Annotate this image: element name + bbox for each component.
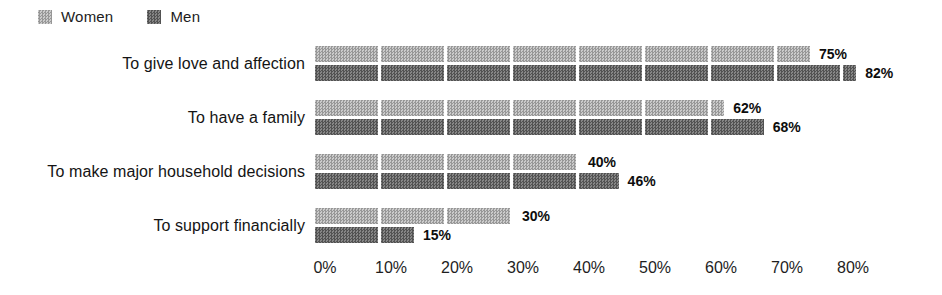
grouped-bar-chart: Women Men To give love and affection75%8… (0, 0, 942, 295)
category-group: To support financially30%15% (0, 208, 942, 243)
bar-pair: 30%15% (315, 208, 942, 243)
bar-row-men: 82% (315, 65, 942, 81)
women-bar (315, 100, 724, 116)
x-axis-tick: 40% (573, 259, 605, 277)
value-label: 15% (423, 227, 451, 243)
value-label: 30% (522, 208, 550, 224)
x-axis-tick: 80% (837, 259, 869, 277)
category-label: To make major household decisions (0, 163, 315, 181)
bar-pair: 40%46% (315, 154, 942, 189)
category-group: To give love and affection75%82% (0, 46, 942, 81)
value-label: 82% (865, 65, 893, 81)
x-axis-tick: 60% (705, 259, 737, 277)
men-bar (315, 119, 764, 135)
x-axis-tick: 30% (507, 259, 539, 277)
legend-item-men: Men (147, 8, 200, 25)
legend-label-women: Women (61, 8, 113, 25)
x-axis-tick: 50% (639, 259, 671, 277)
bar-row-women: 75% (315, 46, 942, 62)
legend-item-women: Women (38, 8, 113, 25)
legend: Women Men (38, 8, 200, 25)
x-axis-tick: 0% (313, 259, 336, 277)
bar-row-men: 68% (315, 119, 942, 135)
x-axis-tick: 10% (375, 259, 407, 277)
category-group: To have a family62%68% (0, 100, 942, 135)
legend-label-men: Men (170, 8, 200, 25)
bar-pair: 62%68% (315, 100, 942, 135)
plot-area: To give love and affection75%82%To have … (0, 46, 942, 262)
category-group: To make major household decisions40%46% (0, 154, 942, 189)
x-axis-tick: 70% (771, 259, 803, 277)
value-label: 75% (819, 46, 847, 62)
value-label: 68% (773, 119, 801, 135)
women-bar (315, 46, 810, 62)
bar-row-men: 15% (315, 227, 942, 243)
value-label: 46% (628, 173, 656, 189)
bar-row-women: 40% (315, 154, 942, 170)
women-bar (315, 208, 513, 224)
men-bar (315, 173, 619, 189)
category-label: To have a family (0, 109, 315, 127)
women-bar (315, 154, 579, 170)
bar-row-men: 46% (315, 173, 942, 189)
bar-row-women: 30% (315, 208, 942, 224)
men-swatch-icon (147, 10, 161, 24)
x-axis: 0%10%20%30%40%50%60%70%80% (325, 259, 942, 281)
category-label: To support financially (0, 217, 315, 235)
men-bar (315, 65, 856, 81)
bar-pair: 75%82% (315, 46, 942, 81)
value-label: 40% (588, 154, 616, 170)
value-label: 62% (733, 100, 761, 116)
women-swatch-icon (38, 10, 52, 24)
x-axis-tick: 20% (441, 259, 473, 277)
men-bar (315, 227, 414, 243)
bar-row-women: 62% (315, 100, 942, 116)
category-label: To give love and affection (0, 55, 315, 73)
